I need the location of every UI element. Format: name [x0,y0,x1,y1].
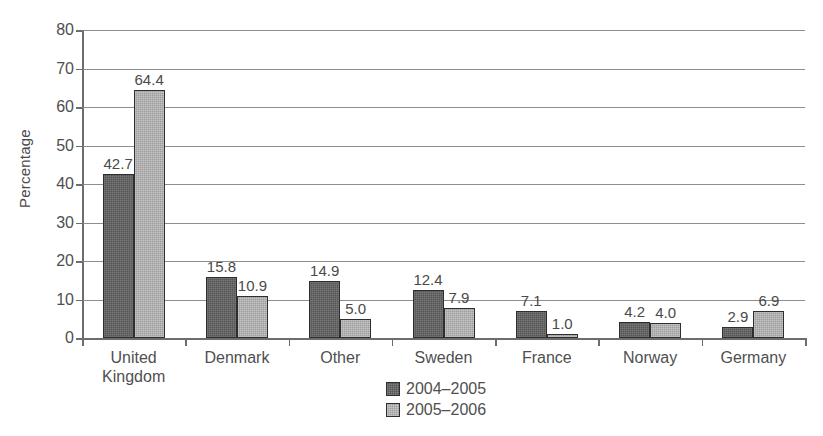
gridline-80 [82,30,805,31]
gridline-40 [82,184,805,185]
gridline-20 [82,261,805,262]
bar-value-label: 1.0 [538,315,587,332]
bar-norway-series2 [650,323,681,338]
x-category-label-united-kingdom: United Kingdom [82,348,185,386]
y-tick-mark-80 [76,30,83,32]
bar-germany-series2 [753,311,784,338]
bar-value-label: 7.9 [435,289,484,306]
bar-value-label: 14.9 [300,262,349,279]
y-tick-label-30: 30 [34,214,74,232]
y-tick-label-20: 20 [34,252,74,270]
bar-value-label: 4.0 [641,304,690,321]
y-tick-mark-20 [76,261,83,263]
x-axis-line [82,338,805,340]
x-tick-mark [185,338,187,346]
y-tick-label-60: 60 [34,98,74,116]
bar-sweden-series2 [444,308,475,338]
y-tick-mark-50 [76,146,83,148]
x-tick-mark [82,338,84,346]
legend-label: 2005–2006 [406,401,486,419]
x-tick-mark [598,338,600,346]
bar-value-label: 7.1 [507,292,556,309]
gridline-70 [82,69,805,70]
bar-value-label: 12.4 [404,271,453,288]
x-category-label-germany: Germany [702,348,805,367]
legend-swatch-icon [386,382,400,396]
y-tick-mark-70 [76,69,83,71]
x-tick-mark [702,338,704,346]
y-axis-tick-labels: 01020304050607080 [0,0,74,436]
x-category-label-norway: Norway [598,348,701,367]
y-tick-mark-30 [76,223,83,225]
y-tick-label-50: 50 [34,137,74,155]
x-category-label-other: Other [289,348,392,367]
y-tick-mark-10 [76,300,83,302]
plot-area: 42.764.415.810.914.95.012.47.97.11.04.24… [82,30,805,338]
legend-item-2: 2005–2006 [386,399,486,420]
bar-norway-series1 [619,322,650,338]
x-tick-mark [289,338,291,346]
x-tick-mark [495,338,497,346]
bar-other-series2 [340,319,371,338]
legend-swatch-icon [386,403,400,417]
gridline-30 [82,223,805,224]
y-tick-label-70: 70 [34,60,74,78]
x-tick-mark [805,338,807,346]
gridline-50 [82,146,805,147]
x-category-label-sweden: Sweden [392,348,495,367]
legend-label: 2004–2005 [406,380,486,398]
y-tick-label-80: 80 [34,21,74,39]
bar-denmark-series2 [237,296,268,338]
bar-value-label: 5.0 [331,300,380,317]
bar-value-label: 15.8 [197,258,246,275]
bar-value-label: 10.9 [228,277,277,294]
legend-item-1: 2004–2005 [386,378,486,399]
bar-value-label: 64.4 [125,71,174,88]
legend: 2004–20052005–2006 [386,378,486,420]
gridline-60 [82,107,805,108]
y-tick-mark-60 [76,107,83,109]
bar-value-label: 6.9 [744,292,793,309]
bar-chart: Percentage 01020304050607080 42.764.415.… [0,0,823,436]
x-tick-mark [392,338,394,346]
bar-united-kingdom-series1 [103,174,134,338]
y-tick-mark-40 [76,184,83,186]
y-tick-label-40: 40 [34,175,74,193]
bar-france-series2 [547,334,578,338]
x-category-label-france: France [495,348,598,367]
y-tick-label-0: 0 [34,329,74,347]
bar-united-kingdom-series2 [134,90,165,338]
x-category-label-denmark: Denmark [185,348,288,367]
y-tick-label-10: 10 [34,291,74,309]
bar-germany-series1 [722,327,753,338]
